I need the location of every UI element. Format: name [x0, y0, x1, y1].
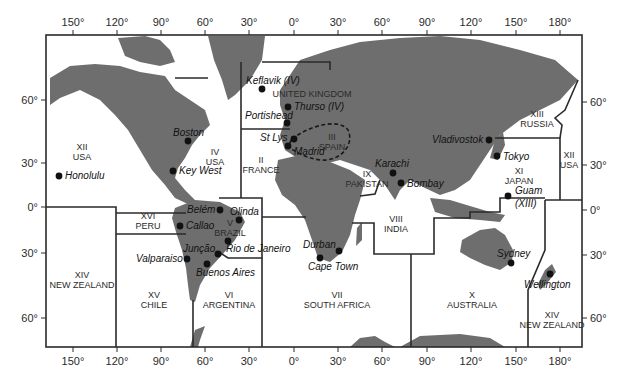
station-honolulu[interactable]: Honolulu [56, 170, 105, 181]
area-name: RUSSIA [520, 119, 554, 129]
latitude-label: 60° [590, 312, 607, 324]
greenland [208, 36, 265, 100]
station-portishead[interactable]: Portishead [245, 110, 293, 126]
world-map: 150°120°90°60°30°0°30°60°90°120°150°180°… [0, 0, 631, 386]
area-number: II [258, 155, 263, 165]
station-label: Junção [182, 243, 216, 254]
area-name: USA [73, 152, 92, 162]
area-number: IX [363, 169, 372, 179]
area-number: XIV [75, 270, 90, 280]
area-number: III [328, 132, 336, 142]
longitude-label: 150° [62, 355, 85, 367]
station-label: Cape Town [308, 261, 359, 272]
station-label: Durban [303, 239, 336, 250]
longitude-label: 120° [106, 16, 129, 28]
longitude-label: 60° [197, 355, 214, 367]
area-name: SOUTH AFRICA [304, 300, 371, 310]
longitude-label: 90° [153, 355, 170, 367]
area-name: NEW ZEALAND [49, 280, 115, 290]
latitude-label: 30° [21, 247, 38, 259]
station-dot-icon [236, 217, 243, 224]
station-label: St Lys [260, 132, 288, 143]
area-name: ARGENTINA [203, 300, 256, 310]
longitude-label: 30° [330, 355, 347, 367]
station-dot-icon [390, 170, 397, 177]
station--xiii-[interactable]: (XIII) [515, 198, 537, 209]
station-dot-icon [486, 137, 493, 144]
antarctica-2 [400, 334, 505, 347]
station-valparaiso[interactable]: Valparaiso [136, 253, 190, 264]
station-label: Tokyo [503, 151, 530, 162]
latitude-label: 30° [21, 157, 38, 169]
station-label: Bombay [407, 178, 445, 189]
longitude-label: 60° [374, 355, 391, 367]
station-dot-icon [217, 207, 224, 214]
area-name: INDIA [384, 224, 408, 234]
station-label: Rio de Janeiro [226, 243, 291, 254]
area-name: NEW ZEALAND [519, 320, 585, 330]
latitude-label: 60° [21, 312, 38, 324]
station-label: Wellington [524, 279, 571, 290]
station-label: Honolulu [65, 170, 105, 181]
area-name: AUSTRALIA [447, 300, 497, 310]
latitude-label: 0° [590, 204, 601, 216]
station-label: Olinda [230, 206, 259, 217]
area-number: XI [515, 166, 524, 176]
area-number: XIII [530, 109, 544, 119]
station-label: Guam [515, 185, 542, 196]
station-dot-icon [494, 153, 501, 160]
right-latitude-ticks: 60°30°0°30°60° [582, 96, 607, 324]
longitude-label: 120° [460, 16, 483, 28]
area-number: VI [225, 290, 234, 300]
longitude-label: 60° [197, 16, 214, 28]
longitude-label: 30° [241, 16, 258, 28]
latitude-label: 30° [590, 249, 607, 261]
station-dot-icon [547, 271, 554, 278]
area-name: BRAZIL [214, 228, 246, 238]
longitude-label: 150° [62, 16, 85, 28]
area-number: V [227, 218, 233, 228]
latitude-label: 60° [21, 94, 38, 106]
longitude-label: 30° [241, 355, 258, 367]
arctic-islands [118, 36, 175, 66]
area-number: XII [76, 142, 87, 152]
station-buenos-aires[interactable]: Buenos Aires [196, 261, 255, 278]
station-dot-icon [505, 193, 512, 200]
longitude-label: 120° [460, 355, 483, 367]
longitude-label: 150° [505, 16, 528, 28]
left-latitude-ticks: 60°30°0°30°60° [21, 94, 46, 324]
area-number: XIV [545, 310, 560, 320]
top-longitude-ticks: 150°120°90°60°30°0°30°60°90°120°150°180° [62, 16, 572, 35]
bottom-longitude-ticks: 150°120°90°60°30°0°30°60°90°120°150°180° [62, 347, 572, 367]
station-dot-icon [185, 138, 192, 145]
area-number: VII [331, 290, 342, 300]
station-dot-icon [508, 260, 515, 267]
longitude-label: 180° [549, 16, 572, 28]
area-name: PERU [135, 221, 160, 231]
area-number: X [469, 290, 475, 300]
longitude-label: 0° [289, 16, 300, 28]
latitude-label: 60° [590, 96, 607, 108]
longitude-label: 150° [505, 355, 528, 367]
area-name: FRANCE [242, 165, 279, 175]
area-name: UNITED KINGDOM [272, 89, 351, 99]
area-name: USA [560, 160, 579, 170]
latitude-label: 30° [590, 159, 607, 171]
station-dot-icon [184, 256, 191, 263]
madagascar [356, 222, 362, 246]
station-label: Callao [186, 220, 215, 231]
station-label: Vladivostok [432, 134, 484, 145]
longitude-label: 90° [153, 16, 170, 28]
station-dot-icon [259, 86, 266, 93]
area-number: XVI [141, 211, 156, 221]
longitude-label: 90° [419, 16, 436, 28]
area-number: XV [148, 290, 160, 300]
station-label: Buenos Aires [196, 267, 255, 278]
area-name: PAKISTAN [345, 179, 388, 189]
station-thurso-iv-[interactable]: Thurso (IV) [285, 101, 344, 112]
station-dot-icon [56, 173, 63, 180]
station-dot-icon [177, 223, 184, 230]
station-wellington[interactable]: Wellington [524, 271, 571, 290]
longitude-label: 60° [374, 16, 391, 28]
station-label: Thurso (IV) [294, 101, 344, 112]
